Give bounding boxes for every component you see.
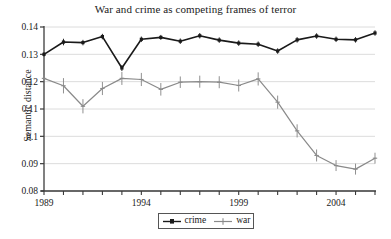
data-point-crime <box>179 40 182 43</box>
y-axis-tick-label: 0.1 <box>26 132 38 142</box>
series-line-war <box>44 78 375 169</box>
legend-label-crime: crime <box>185 216 207 226</box>
plot-area: 0.080.090.10.110.120.130.141989199419992… <box>0 0 391 239</box>
legend-item-crime: crime <box>162 216 207 226</box>
data-point-crime <box>159 36 162 39</box>
data-point-crime <box>354 38 357 41</box>
y-axis-tick-label: 0.11 <box>22 104 39 114</box>
legend-swatch-war <box>213 217 233 226</box>
series-line-crime <box>44 33 375 68</box>
data-point-crime <box>237 42 240 45</box>
data-point-crime <box>334 38 337 41</box>
x-axis-tick-label: 1999 <box>229 198 248 208</box>
data-point-crime <box>296 38 299 41</box>
x-axis-tick-label: 2004 <box>327 198 346 208</box>
data-point-crime <box>218 39 221 42</box>
y-axis-tick-label: 0.12 <box>21 77 38 87</box>
data-point-crime <box>198 34 201 37</box>
data-point-crime <box>257 43 260 46</box>
data-point-crime <box>42 53 45 56</box>
legend-item-war: war <box>213 216 250 226</box>
y-axis-tick-label: 0.13 <box>21 50 38 60</box>
chart-figure: War and crime as competing frames of ter… <box>0 0 391 239</box>
legend-label-war: war <box>236 216 250 226</box>
data-point-crime <box>120 66 123 69</box>
data-point-crime <box>276 49 279 52</box>
y-axis-tick-label: 0.09 <box>21 159 38 169</box>
data-point-crime <box>373 31 376 34</box>
data-point-crime <box>140 38 143 41</box>
data-point-crime <box>81 41 84 44</box>
y-axis-tick-label: 0.14 <box>21 22 38 32</box>
data-point-crime <box>315 34 318 37</box>
x-axis-tick-label: 1989 <box>35 198 54 208</box>
y-axis-tick-label: 0.08 <box>21 186 38 196</box>
legend-swatch-crime <box>162 217 182 226</box>
data-point-crime <box>101 35 104 38</box>
chart-legend: crime war <box>158 213 254 229</box>
data-point-crime <box>62 40 65 43</box>
x-axis-tick-label: 1994 <box>132 198 151 208</box>
